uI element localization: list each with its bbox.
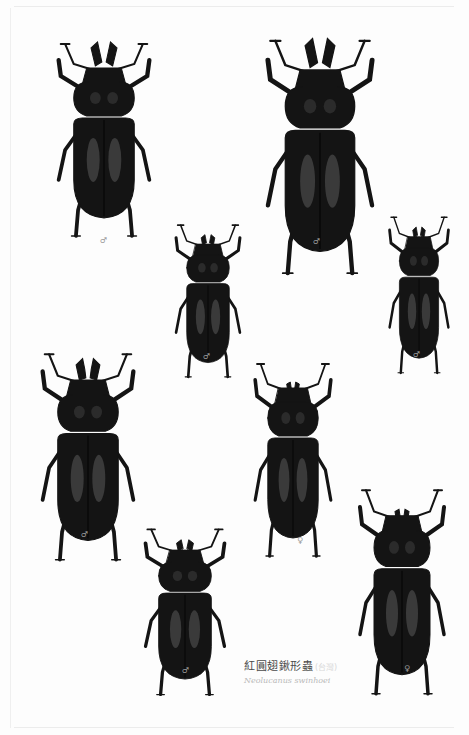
male-symbol: ♂: [203, 352, 210, 361]
male-symbol: ♂: [313, 237, 320, 246]
plate-caption: 紅圓翅鍬形蟲(台灣) Neolucanus swinhoei: [244, 655, 337, 685]
female-symbol: ♀: [404, 664, 410, 673]
page-edge-left: [10, 8, 11, 728]
beetle-specimen-female-2: [352, 486, 452, 698]
beetle-specimen-male-large-1: [50, 40, 158, 240]
male-symbol: ♂: [182, 666, 189, 675]
chinese-suffix: (台灣): [315, 663, 337, 672]
page-edge-top: [14, 6, 454, 7]
book-plate: ♂♂♂♂♂♀♂♀ 紅圓翅鍬形蟲(台灣) Neolucanus swinhoei: [0, 0, 469, 735]
male-symbol: ♂: [81, 530, 88, 539]
page-edge-bottom: [14, 727, 454, 728]
scientific-name: Neolucanus swinhoei: [244, 676, 337, 685]
female-symbol: ♀: [297, 536, 303, 545]
male-symbol: ♂: [413, 350, 420, 359]
male-symbol: ♂: [100, 236, 107, 245]
chinese-name: 紅圓翅鍬形蟲: [244, 660, 313, 673]
beetle-specimen-female-1: [248, 360, 338, 560]
